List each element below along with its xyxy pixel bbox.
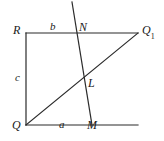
vertex-label-Q1: Q1 [142,24,155,39]
vertex-label-L: L [88,77,95,89]
vertex-label-Q: Q [12,119,21,131]
vertex-label-Q1-base: Q [142,23,151,37]
vertex-label-R: R [13,24,20,36]
vertex-label-Q1-subscript: 1 [151,32,155,41]
side-label-c: c [15,72,20,83]
vertex-label-M: M [87,119,97,131]
geometry-figure: R b N Q1 c L Q a M [0,0,164,141]
side-label-b: b [50,21,56,32]
diagonal-Q-to-Q1-line [26,33,138,125]
vertex-label-N: N [79,21,87,33]
side-label-a: a [59,119,65,130]
